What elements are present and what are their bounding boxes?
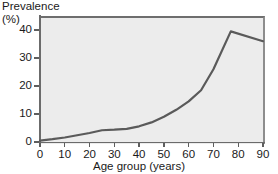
x-tick-mark: [163, 143, 164, 147]
x-tick-mark: [188, 143, 189, 147]
y-tick-label: 10: [19, 108, 32, 119]
y-tick-mark: [34, 113, 39, 114]
plot-area: [40, 16, 265, 144]
x-tick-label: 0: [37, 148, 43, 160]
x-tick-label: 90: [257, 148, 270, 160]
x-tick-label: 20: [83, 148, 96, 160]
x-tick-label: 60: [182, 148, 195, 160]
x-tick-mark: [213, 143, 214, 147]
x-axis-label: Age group (years): [0, 160, 278, 172]
y-tick-mark: [34, 85, 39, 86]
x-tick-label: 40: [133, 148, 146, 160]
y-tick-label: 0: [26, 136, 32, 147]
x-tick-label: 50: [157, 148, 170, 160]
x-tick-mark: [39, 143, 40, 147]
y-tick-label: 30: [19, 52, 32, 63]
y-tick-mark: [34, 141, 39, 142]
y-tick-mark: [34, 29, 39, 30]
x-tick-label: 30: [108, 148, 121, 160]
y-axis-label-text: Prevalence: [2, 0, 60, 13]
y-axis-line: [39, 15, 41, 143]
x-tick-mark: [64, 143, 65, 147]
chart-screenshot: Prevalence (%) 010203040 010203040506070…: [0, 0, 278, 174]
x-tick-label: 10: [58, 148, 71, 160]
x-tick-mark: [89, 143, 90, 147]
x-tick-mark: [262, 143, 263, 147]
y-tick-label: 20: [19, 80, 32, 91]
y-tick-label: 40: [19, 24, 32, 35]
x-tick-mark: [138, 143, 139, 147]
y-tick-mark: [34, 57, 39, 58]
x-tick-label: 80: [232, 148, 245, 160]
x-axis-line: [39, 142, 265, 144]
x-tick-label: 70: [207, 148, 220, 160]
x-tick-mark: [238, 143, 239, 147]
x-tick-mark: [114, 143, 115, 147]
